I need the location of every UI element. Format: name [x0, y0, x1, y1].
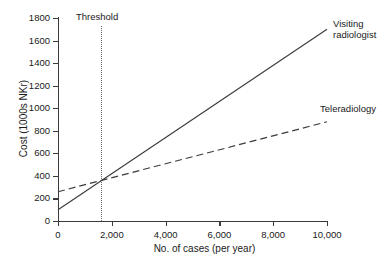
series-line-visiting-radiologist — [58, 29, 327, 209]
figure-bottom-rule — [8, 262, 381, 263]
series-label-line-2: radiologist — [333, 29, 376, 40]
series-label-teleradiology: Teleradiology — [320, 103, 376, 114]
series-label-visiting-radiologist: Visiting radiologist — [333, 18, 376, 40]
chart-figure: 1800 1600 1400 1200 1000 800 600 400 200… — [0, 0, 389, 267]
series-label-line-1: Visiting — [333, 18, 376, 29]
series-line-teleradiology — [58, 122, 327, 192]
series-lines — [0, 0, 389, 267]
